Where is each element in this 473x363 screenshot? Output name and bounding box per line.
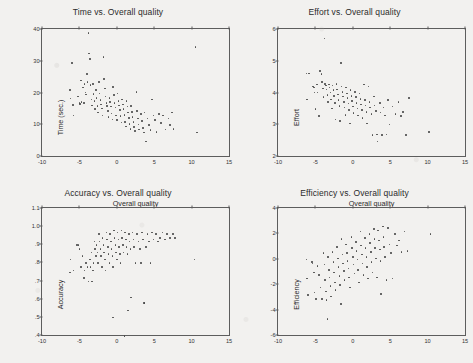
data-point [371,113,373,115]
data-point [357,269,359,271]
data-point [92,83,94,85]
data-point [355,241,357,243]
data-point [94,108,96,110]
data-point [82,87,84,89]
data-point [118,100,120,102]
data-point [404,231,406,233]
data-point [80,80,82,82]
data-point [94,248,96,250]
x-tick-mark [352,27,353,30]
data-point [94,241,96,243]
data-point [88,53,90,55]
x-tick-label: 5 [389,159,392,165]
data-point [379,102,381,104]
data-point [70,259,72,261]
data-point [407,250,409,252]
y-tick-mark [40,156,43,157]
data-point [326,299,328,301]
data-point [124,335,126,337]
y-axis-label: Effort [292,88,301,148]
data-point [97,262,99,264]
data-point [148,241,150,243]
data-point [366,123,368,125]
panel-efficiency: Efficiency vs. Overall quality Efficienc… [236,181,473,363]
data-point [366,256,368,258]
data-point [88,281,90,283]
y-tick-label: 0 [272,256,275,262]
data-point [363,274,365,276]
data-point [118,105,120,107]
data-point [173,128,175,130]
x-tick-mark [116,27,117,30]
data-point [321,81,323,83]
plot-area: Efficiency Overall quality -6-4-2024-10-… [277,207,466,336]
data-point [366,111,368,113]
y-tick-mark [40,124,43,125]
data-point [166,233,168,235]
data-point [332,251,334,253]
data-point [83,277,85,279]
data-point [331,108,333,110]
data-point [374,247,376,249]
data-point [408,97,410,99]
data-point [365,105,367,107]
x-tick-label: 5 [153,338,156,344]
data-point [334,102,336,104]
data-point [336,89,338,91]
data-point [364,99,366,101]
data-point [116,259,118,261]
data-point [82,255,84,257]
data-point [115,107,117,109]
data-point [104,88,106,90]
x-tick-mark [390,206,391,209]
y-tick-label: 6 [272,26,275,32]
y-tick-label: -2 [271,281,276,287]
y-tick-label: 1.1 [32,205,40,211]
x-tick-mark [278,206,279,209]
data-point [342,254,344,256]
panel-time: Time vs. Overall quality Time (sec.) Ove… [0,0,236,181]
data-point [116,119,118,121]
data-point [80,266,82,268]
data-point [97,105,99,107]
data-point [114,102,116,104]
data-point [138,129,140,131]
x-tick-mark [154,206,155,209]
data-point [323,96,325,98]
y-tick-label: 1.0 [32,223,40,229]
x-tick-label: -5 [313,159,318,165]
x-tick-mark [229,206,230,209]
data-point [91,252,93,254]
x-tick-label: 0 [115,159,118,165]
x-tick-label: -10 [274,338,282,344]
data-point [369,107,371,109]
data-point [137,118,139,120]
data-point [343,270,345,272]
data-point [361,254,363,256]
data-point [109,233,111,235]
data-point [306,259,308,261]
data-point [354,91,356,93]
data-point [379,249,381,251]
data-point [133,239,135,241]
y-tick-mark [276,258,279,259]
data-point [337,94,339,96]
data-point [123,252,125,254]
data-point [352,106,354,108]
data-point [102,115,104,117]
data-point [77,96,79,98]
data-point [386,134,388,136]
data-point [97,112,99,114]
data-point [306,99,308,101]
data-point [148,124,150,126]
x-tick-label: 5 [389,338,392,344]
data-point [360,231,362,233]
y-tick-mark [40,335,43,336]
x-tick-mark [116,206,117,209]
data-point [72,104,74,106]
y-tick-label: 3 [272,121,275,127]
data-point [91,99,93,101]
data-point [145,246,147,248]
data-point [114,237,116,239]
data-point [339,284,341,286]
